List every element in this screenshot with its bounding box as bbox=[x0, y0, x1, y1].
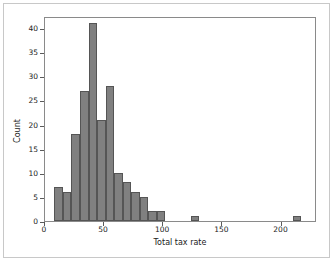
y-tick-label: 5 bbox=[12, 194, 38, 202]
x-tick-mark bbox=[103, 222, 104, 226]
histogram-bar bbox=[148, 211, 157, 221]
x-tick-mark bbox=[281, 222, 282, 226]
x-tick-mark bbox=[221, 222, 222, 226]
histogram-figure: Count 0510152025303540 050100150200 Tota… bbox=[0, 0, 334, 262]
x-tick-mark bbox=[44, 222, 45, 226]
histogram-bar bbox=[191, 216, 200, 221]
histogram-bar bbox=[106, 86, 115, 221]
y-tick-label: 10 bbox=[12, 170, 38, 178]
histogram-bar bbox=[71, 134, 80, 221]
histogram-bar bbox=[293, 216, 302, 221]
histogram-bar bbox=[123, 182, 132, 221]
x-tick-mark bbox=[162, 222, 163, 226]
y-tick-label: 20 bbox=[12, 122, 38, 130]
y-tick-label: 40 bbox=[12, 25, 38, 33]
histogram-bar bbox=[114, 173, 123, 221]
x-axis-label: Total tax rate bbox=[44, 238, 316, 247]
x-tick-label: 150 bbox=[206, 226, 236, 234]
x-tick-label: 0 bbox=[29, 226, 59, 234]
histogram-bars bbox=[45, 18, 315, 221]
y-tick-label: 25 bbox=[12, 98, 38, 106]
histogram-bar bbox=[131, 192, 140, 221]
plot-area bbox=[44, 17, 316, 222]
x-tick-label: 100 bbox=[147, 226, 177, 234]
histogram-bar bbox=[54, 187, 63, 221]
y-tick-label: 35 bbox=[12, 49, 38, 57]
y-tick-label: 30 bbox=[12, 74, 38, 82]
x-tick-label: 200 bbox=[266, 226, 296, 234]
histogram-bar bbox=[89, 23, 98, 221]
y-tick-label: 15 bbox=[12, 146, 38, 154]
histogram-bar bbox=[80, 91, 89, 221]
histogram-bar bbox=[157, 211, 166, 221]
histogram-bar bbox=[97, 120, 106, 221]
histogram-bar bbox=[140, 197, 149, 221]
y-tick-label: 0 bbox=[12, 218, 38, 226]
x-tick-label: 50 bbox=[88, 226, 118, 234]
histogram-bar bbox=[63, 192, 72, 221]
